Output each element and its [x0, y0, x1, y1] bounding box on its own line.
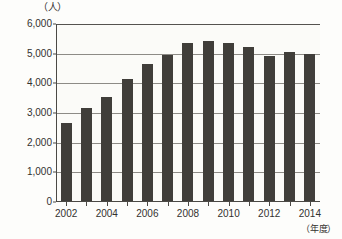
x-tick-mark-2003 [86, 202, 87, 206]
x-tick-mark-2004 [107, 202, 108, 206]
x-tick-label-2002: 2002 [55, 208, 77, 219]
bar-slot-2009 [198, 24, 218, 202]
bar-2012 [264, 56, 275, 202]
bar-2007 [162, 55, 173, 202]
y-tick-label-3000: 3,000 [27, 108, 52, 118]
bar-2014 [304, 54, 315, 202]
bar-slot-2005 [117, 24, 137, 202]
bar-2006 [142, 64, 153, 202]
x-tick-mark-2005 [127, 202, 128, 206]
x-tick-mark-2008 [188, 202, 189, 206]
bar-slot-2011 [239, 24, 259, 202]
bar-2013 [284, 52, 295, 202]
bar-2008 [182, 43, 193, 202]
x-tick-mark-2012 [269, 202, 270, 206]
x-tick-label-2008: 2008 [177, 208, 199, 219]
x-tick-mark-2014 [310, 202, 311, 206]
x-tick-mark-2002 [66, 202, 67, 206]
bar-slot-2008: 2008 [178, 24, 198, 202]
y-axis-line [56, 24, 57, 202]
bar-slot-2004: 2004 [97, 24, 117, 202]
plot-area: 01,0002,0003,0004,0005,0006,000 20022004… [56, 24, 320, 202]
x-tick-label-2006: 2006 [136, 208, 158, 219]
bar-slot-2010: 2010 [218, 24, 238, 202]
y-tick-label-6000: 6,000 [27, 19, 52, 29]
y-axis-unit-label: （人） [38, 2, 67, 14]
bar-2003 [81, 108, 92, 202]
x-tick-mark-2009 [208, 202, 209, 206]
bar-2005 [122, 79, 133, 202]
bar-slot-2006: 2006 [137, 24, 157, 202]
x-tick-label-2014: 2014 [299, 208, 321, 219]
bar-slot-2002: 2002 [56, 24, 76, 202]
bar-2011 [243, 47, 254, 202]
y-tick-label-2000: 2,000 [27, 138, 52, 148]
y-tick-label-5000: 5,000 [27, 49, 52, 59]
x-tick-mark-2006 [147, 202, 148, 206]
x-tick-mark-2011 [249, 202, 250, 206]
x-tick-label-2004: 2004 [96, 208, 118, 219]
bar-2002 [61, 123, 72, 203]
y-tick-label-4000: 4,000 [27, 78, 52, 88]
x-tick-mark-2010 [229, 202, 230, 206]
bar-slot-2013 [279, 24, 299, 202]
x-tick-label-2010: 2010 [217, 208, 239, 219]
x-tick-mark-2007 [168, 202, 169, 206]
x-axis-line [56, 201, 320, 202]
x-axis-unit-label: （年度） [301, 224, 336, 235]
y-tick-label-0: 0 [46, 197, 52, 207]
bar-chart-figure: （人） 01,0002,0003,0004,0005,0006,000 2002… [0, 0, 342, 239]
y-tick-label-1000: 1,000 [27, 167, 52, 177]
x-tick-mark-2013 [290, 202, 291, 206]
bar-slot-2003 [76, 24, 96, 202]
bar-2009 [203, 41, 214, 202]
bar-2010 [223, 43, 234, 202]
bar-slot-2007 [158, 24, 178, 202]
x-tick-label-2012: 2012 [258, 208, 280, 219]
bar-2004 [101, 97, 112, 202]
bar-slot-2012: 2012 [259, 24, 279, 202]
bar-slot-2014: 2014 [300, 24, 320, 202]
